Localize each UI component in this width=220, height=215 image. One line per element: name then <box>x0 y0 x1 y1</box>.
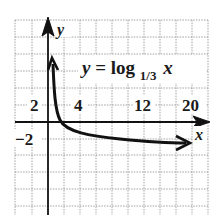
eq-var: x <box>162 57 173 78</box>
y-axis-label: y <box>55 21 65 39</box>
tick-x-12: 12 <box>134 96 151 115</box>
tick-x-4: 4 <box>74 96 83 115</box>
log-graph: y y = log 1/3 x 2 4 12 20 −2 x <box>0 0 220 215</box>
eq-lhs: y <box>80 57 91 78</box>
eq-mid: = log <box>95 57 135 78</box>
tick-y-neg2: −2 <box>15 130 33 149</box>
x-axis-label: x <box>194 126 203 143</box>
axes <box>15 17 210 215</box>
tick-x-20: 20 <box>182 96 199 115</box>
tick-y-2: 2 <box>30 96 39 115</box>
grid <box>15 20 208 215</box>
eq-base: 1/3 <box>140 68 157 83</box>
